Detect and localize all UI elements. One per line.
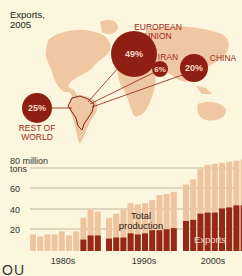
decade-1990s: 1990s xyxy=(132,256,157,266)
y-tick-60: 60 xyxy=(10,184,20,194)
north-america-shape xyxy=(46,30,111,92)
exports-label: Exports xyxy=(194,234,226,245)
bar-exports xyxy=(128,233,134,251)
decade-1980s: 1980s xyxy=(51,256,76,266)
bar-exports xyxy=(113,238,119,251)
bar-exports xyxy=(183,221,189,251)
bar-total-production xyxy=(30,234,36,251)
bar-total-production xyxy=(52,234,58,251)
eu-percent: 49% xyxy=(125,49,143,59)
se-asia-shape xyxy=(196,86,212,94)
bar-exports xyxy=(233,205,239,251)
bar-total-production xyxy=(59,231,65,251)
bar-total-production xyxy=(66,235,72,251)
decade-labels: 1980s 1990s 2000s xyxy=(51,256,226,266)
y-tick-20: 20 xyxy=(10,225,20,235)
bar-exports xyxy=(135,234,141,251)
bar-exports xyxy=(80,240,86,251)
y-tick-40: 40 xyxy=(10,205,20,215)
bar-exports xyxy=(205,213,211,251)
infographic-canvas: 49% EUROPEAN UNION 6% IRAN 20% CHINA 25%… xyxy=(0,0,242,276)
greenland-shape xyxy=(100,20,118,34)
total-production-label-line2: production xyxy=(119,220,163,231)
china-label: CHINA xyxy=(210,53,237,63)
bar-exports xyxy=(212,213,218,251)
footer-text-fragment: OU xyxy=(2,262,25,276)
bar-exports xyxy=(88,235,94,251)
decade-2000s: 2000s xyxy=(201,256,226,266)
eu-label-line2: UNION xyxy=(144,31,171,41)
bar-exports xyxy=(120,238,126,251)
bar-exports xyxy=(226,207,232,251)
bar-exports xyxy=(164,229,170,251)
iran-label: IRAN xyxy=(158,52,178,62)
china-percent: 20% xyxy=(185,63,203,73)
rest-percent: 25% xyxy=(28,103,46,113)
bar-exports xyxy=(197,214,203,251)
rest-label-line2: WORLD xyxy=(21,132,53,142)
bar-total-production xyxy=(37,236,43,251)
bar-exports xyxy=(142,233,148,251)
bar-total-production xyxy=(73,231,79,251)
bar-total-production xyxy=(44,234,50,251)
bar-exports xyxy=(171,228,177,251)
bar-exports xyxy=(149,230,155,251)
iran-percent: 6% xyxy=(154,65,166,74)
y-unit-line2: tons xyxy=(10,164,28,174)
bar-exports xyxy=(106,239,112,251)
australia-shape xyxy=(197,102,226,121)
bar-exports xyxy=(241,205,242,251)
bar-exports xyxy=(156,230,162,251)
bubble-rest-of-world[interactable]: 25% REST OF WORLD xyxy=(19,93,56,142)
connector-eu xyxy=(88,68,118,102)
bar-exports xyxy=(95,235,101,251)
